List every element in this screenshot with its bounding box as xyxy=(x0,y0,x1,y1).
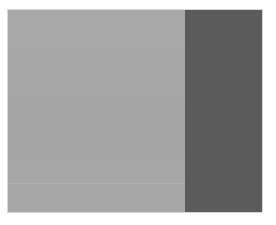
light-gray-panel xyxy=(8,10,185,212)
horizontal-divider xyxy=(8,183,185,184)
dark-gray-panel xyxy=(185,10,262,212)
image-frame xyxy=(8,10,262,212)
